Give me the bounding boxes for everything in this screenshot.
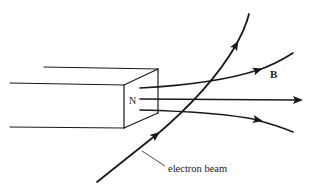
magnet-face-top-edge <box>124 69 158 85</box>
field-line-middle <box>140 99 298 100</box>
field-lines <box>140 53 298 132</box>
electron-beam-lower-segment <box>97 135 156 182</box>
electron-beam-label: electron beam <box>168 163 227 174</box>
electron-beam-middle-segment <box>154 45 236 137</box>
magnet-back-top-edge <box>44 67 158 69</box>
magnet-front-top-edge <box>10 83 124 85</box>
electron-beam-leader-line <box>142 151 165 166</box>
diagram-canvas: N B electron beam <box>0 0 309 190</box>
magnet-face-bottom-edge <box>124 113 158 128</box>
electron-beam-upper-segment <box>234 14 249 48</box>
field-line-lower-tail <box>256 120 293 132</box>
field-label-b: B <box>270 68 278 80</box>
magnet-front-bottom-edge <box>10 127 124 128</box>
electron-beam <box>97 14 249 182</box>
north-pole-label: N <box>129 95 136 106</box>
